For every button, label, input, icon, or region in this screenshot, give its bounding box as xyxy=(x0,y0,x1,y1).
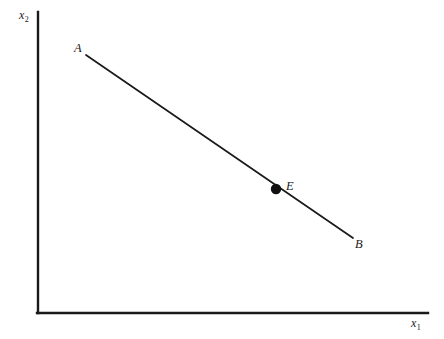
budget-line-ab xyxy=(86,55,353,238)
x-axis-label-subscript: 1 xyxy=(417,323,421,332)
point-label-e: E xyxy=(286,180,294,193)
y-axis-label-text: x xyxy=(19,8,24,22)
y-axis-label: x2 xyxy=(19,9,28,21)
point-label-b: B xyxy=(355,238,363,251)
budget-line-figure: x2 x1 A E B xyxy=(0,0,444,339)
point-label-a: A xyxy=(74,42,82,55)
x-axis-label-text: x xyxy=(411,316,416,330)
point-e-marker xyxy=(271,184,281,194)
y-axis-label-subscript: 2 xyxy=(25,15,29,24)
x-axis-label: x1 xyxy=(411,317,420,329)
plot-area xyxy=(0,0,444,339)
